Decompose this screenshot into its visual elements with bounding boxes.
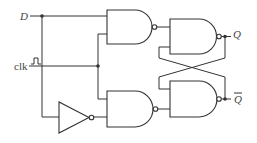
d-latch-diagram: D clk Q Q xyxy=(0,0,257,143)
clk-wire xyxy=(29,34,107,99)
clk-input-label: clk xyxy=(14,60,28,72)
nand-gate-4 xyxy=(170,81,231,117)
nand-gate-3 xyxy=(170,19,231,54)
inverter-gate xyxy=(59,102,107,133)
d-junction-dot xyxy=(40,14,44,18)
clock-pulse-icon xyxy=(31,58,41,64)
q-bar-output-label: Q xyxy=(234,93,242,105)
q-output-label: Q xyxy=(233,28,241,40)
d-input-label: D xyxy=(19,10,28,22)
nand-gate-1 xyxy=(107,10,170,44)
nand-gate-2 xyxy=(107,91,170,127)
clk-junction-dot xyxy=(96,64,100,68)
